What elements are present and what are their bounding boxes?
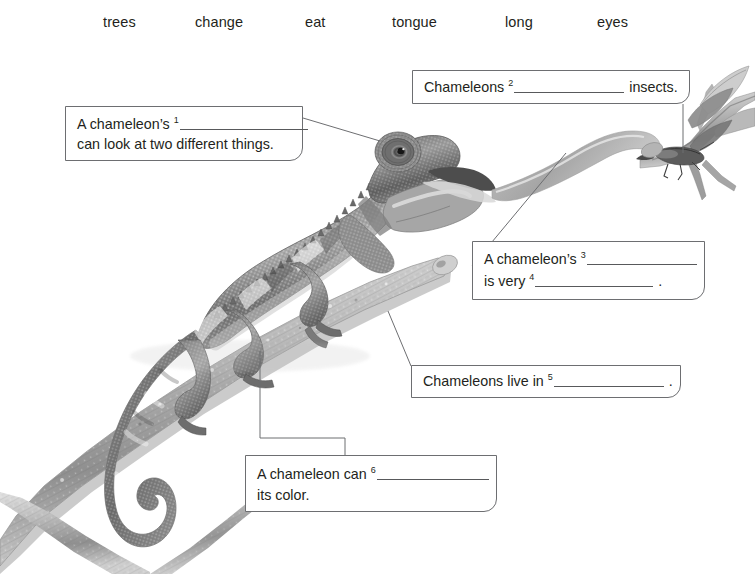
blank-number: 5 (548, 372, 553, 382)
callout-box-eyes: A chameleon’s 1can look at two different… (65, 106, 303, 161)
answer-blank[interactable] (514, 78, 624, 93)
callout-box-trees: Chameleons live in 5 . (411, 365, 681, 398)
callout-text: A chameleon’s (484, 251, 581, 267)
answer-blank[interactable] (587, 250, 697, 265)
callout-text: can look at two different things. (77, 136, 274, 152)
callout-line: A chameleon can 6 (257, 463, 490, 485)
callout-text: A chameleon’s (77, 116, 174, 132)
callout-line: Chameleons live in 5 . (423, 370, 673, 392)
blank-number: 3 (581, 250, 586, 260)
answer-blank[interactable] (377, 465, 489, 480)
callout-text: is very (484, 273, 529, 289)
callout-line: Chameleons 2 insects. (424, 76, 678, 98)
worksheet-page: trees change eat tongue long eyes (0, 0, 755, 574)
callout-text: . (665, 373, 673, 389)
callout-line: is very 4 . (484, 270, 662, 292)
answer-blank[interactable] (535, 272, 653, 287)
blank-number: 1 (174, 115, 179, 125)
answer-blank[interactable] (180, 115, 308, 130)
blank-number: 2 (508, 78, 513, 88)
callout-box-eat: Chameleons 2 insects. (412, 70, 690, 104)
callout-box-change: A chameleon can 6its color. (245, 455, 497, 512)
callout-line: can look at two different things. (77, 133, 274, 155)
blank-number: 6 (371, 465, 376, 475)
callout-line: its color. (257, 484, 309, 506)
answer-blank[interactable] (554, 372, 664, 387)
callout-text: A chameleon can (257, 466, 371, 482)
callout-text: Chameleons live in (423, 373, 548, 389)
chameleon-eye (375, 132, 421, 172)
chameleon-tongue (492, 131, 665, 201)
callout-box-tongue: A chameleon’s 3is very 4 . (472, 241, 705, 300)
callout-text: its color. (257, 487, 309, 503)
callout-text: Chameleons (424, 79, 508, 95)
callout-line: A chameleon’s 1 (77, 113, 309, 135)
callout-text: insects. (625, 79, 677, 95)
callout-text: . (654, 273, 662, 289)
callout-line: A chameleon’s 3 (484, 248, 698, 270)
blank-number: 4 (529, 272, 534, 282)
